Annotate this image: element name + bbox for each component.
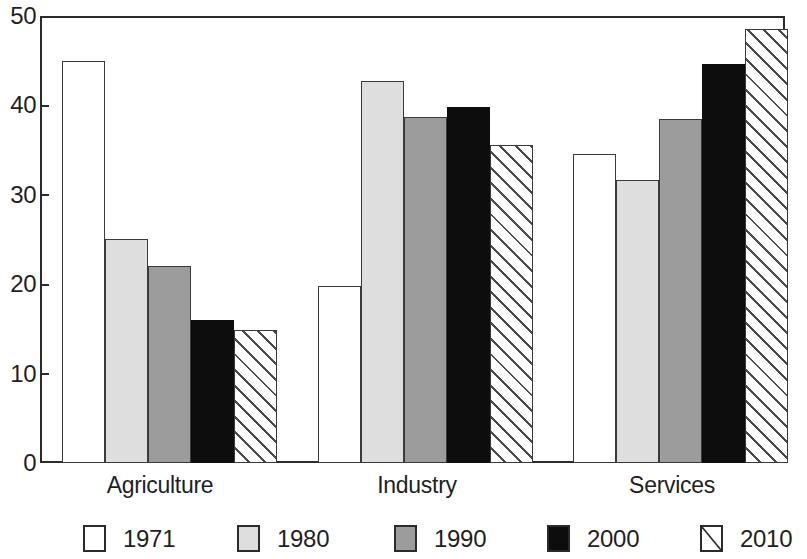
legend-item-1990[interactable]: 1990 (394, 518, 486, 559)
y-tick-label-30: 30 (2, 183, 36, 207)
bar-industry-1990 (404, 117, 447, 463)
bar-industry-1971 (318, 286, 361, 463)
bar-industry-2010 (490, 145, 533, 463)
diagonal-hatch-square-swatch (700, 525, 723, 552)
legend-item-2010[interactable]: 2010 (700, 518, 792, 559)
category-label-agriculture: Agriculture (40, 470, 280, 500)
y-tick-label-40: 40 (2, 93, 36, 117)
bar-agriculture-1971 (62, 61, 105, 463)
legend-label-2010: 2010 (740, 527, 792, 551)
bar-services-2000 (702, 64, 745, 463)
y-tick-label-0: 0 (2, 451, 36, 475)
bar-agriculture-1980 (105, 239, 148, 463)
bar-industry-1980 (361, 81, 404, 463)
bar-services-2010 (745, 29, 788, 463)
y-axis-labels: 50 40 30 20 10 0 (0, 0, 36, 559)
legend-label-2000: 2000 (587, 527, 639, 551)
legend-label-1980: 1980 (277, 527, 329, 551)
light-gray-square-swatch (237, 525, 260, 552)
mid-gray-square-swatch (394, 525, 417, 552)
legend-label-1971: 1971 (123, 527, 175, 551)
bar-industry-2000 (447, 107, 490, 463)
category-label-industry: Industry (297, 470, 537, 500)
bar-services-1980 (616, 180, 659, 463)
bar-agriculture-2000 (191, 320, 234, 463)
y-tick-label-20: 20 (2, 272, 36, 296)
bar-services-1990 (659, 119, 702, 463)
bar-agriculture-1990 (148, 266, 191, 463)
legend-item-1971[interactable]: 1971 (83, 518, 175, 559)
category-label-services: Services (552, 470, 792, 500)
x-axis-category-labels: Agriculture Industry Services (40, 470, 785, 504)
white-square-swatch (83, 525, 106, 552)
bars-layer (40, 16, 785, 463)
chart-legend: 19711980199020002010 (0, 518, 807, 559)
black-square-swatch (547, 525, 570, 552)
y-tick-label-10: 10 (2, 362, 36, 386)
bar-services-1971 (573, 154, 616, 463)
bar-chart-figure: 50 40 30 20 10 0 Agriculture Industry Se… (0, 0, 807, 559)
legend-item-2000[interactable]: 2000 (547, 518, 639, 559)
legend-label-1990: 1990 (434, 527, 486, 551)
legend-item-1980[interactable]: 1980 (237, 518, 329, 559)
bar-agriculture-2010 (234, 330, 277, 463)
y-tick-label-50: 50 (2, 4, 36, 28)
